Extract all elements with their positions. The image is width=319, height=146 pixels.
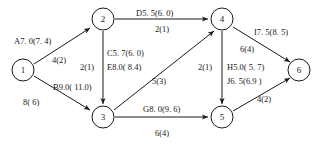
node-3[interactable] [92,106,114,128]
edge-label-b-duration: B9.0( 11.0) [53,82,92,92]
edge-label-j-cost: 4(2) [257,94,271,104]
edge-label-e-cost: 5(3) [152,76,166,86]
edge-label-e-duration: E8.0( 8.4) [107,62,141,72]
edge-label-h-duration: H5.0( 5. 7) [227,62,264,72]
edge-label-c-cost: 2(1) [80,62,94,72]
edge-label-c-duration: C5. 7(6. 0) [107,48,144,58]
edge-label-a-cost: 4(2) [52,55,66,65]
edge-label-g-cost: 6(4) [155,128,169,138]
edge-label-d-cost: 2(1) [155,24,169,34]
node-2[interactable] [92,8,114,30]
edge-label-j-duration: J6. 5(6.9 ) [227,76,261,86]
edge-label-i-cost: 6(4) [240,44,254,54]
network-graph-svg [0,0,319,146]
edge-label-h-cost: 2(1) [198,62,212,72]
edge-label-d-duration: D5. 5(6. 0) [136,8,173,18]
node-6[interactable] [288,59,310,81]
node-5[interactable] [211,106,233,128]
diagram-canvas: 1 2 3 4 5 6 A7. 0(7. 4) 4(2) B9.0( 11.0)… [0,0,319,146]
edge-label-i-duration: I7. 5(8. 5) [254,27,288,37]
node-1[interactable] [12,59,34,81]
edge-label-a-duration: A7. 0(7. 4) [14,36,51,46]
node-4[interactable] [211,8,233,30]
edge-label-g-duration: G8. 0(9. 6) [143,104,180,114]
edge-label-b-cost: 8( 6) [23,97,39,107]
